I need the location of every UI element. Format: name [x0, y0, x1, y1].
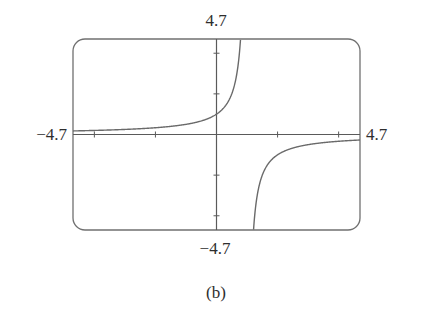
- figure-caption: (b): [206, 283, 226, 302]
- axes: [73, 39, 360, 230]
- y-max-label: 4.7: [205, 11, 227, 30]
- function-graph-figure: 4.7 −4.7 −4.7 4.7 (b): [0, 0, 423, 317]
- x-max-label: 4.7: [366, 125, 388, 144]
- y-min-label: −4.7: [200, 239, 231, 258]
- curve-right-branch: [254, 140, 360, 230]
- x-min-label: −4.7: [36, 125, 67, 144]
